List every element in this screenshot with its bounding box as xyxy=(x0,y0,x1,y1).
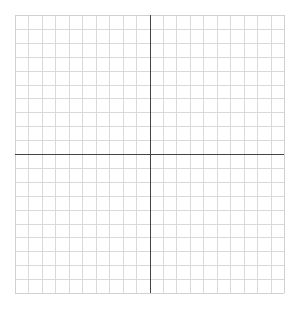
coordinate-grid xyxy=(0,0,296,309)
coordinate-plane xyxy=(0,0,296,309)
